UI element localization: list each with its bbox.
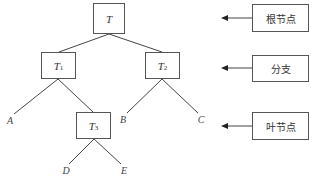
decision-tree-diagram: T T1 T2 T3 A B C D E 根节点 分支 叶节点 bbox=[0, 0, 315, 187]
edge-t2-c bbox=[162, 79, 198, 113]
legend-leaf-node: 叶节点 bbox=[252, 112, 309, 140]
leaf-a: A bbox=[7, 115, 13, 126]
node-t1-subscript: 1 bbox=[60, 64, 64, 72]
leaf-c: C bbox=[198, 114, 205, 125]
edge-t-t1 bbox=[59, 34, 109, 52]
leaf-d: D bbox=[62, 165, 69, 176]
node-root: T bbox=[93, 3, 125, 34]
legend-leaf-node-label: 叶节点 bbox=[266, 119, 296, 134]
legend-root-node-label: 根节点 bbox=[266, 11, 296, 26]
node-t2-subscript: 2 bbox=[164, 64, 168, 72]
edge-t3-e bbox=[94, 139, 121, 164]
leaf-b: B bbox=[120, 114, 126, 125]
legend-branch: 分支 bbox=[252, 55, 309, 82]
legend-arrow-root-icon bbox=[221, 15, 228, 21]
legend-branch-label: 分支 bbox=[271, 61, 291, 76]
node-t2: T2 bbox=[145, 52, 180, 79]
node-t3-subscript: 3 bbox=[95, 124, 99, 132]
node-root-label: T bbox=[106, 13, 112, 25]
node-t3: T3 bbox=[76, 112, 111, 139]
legend-arrow-branch-icon bbox=[221, 65, 228, 71]
legend-arrow-leaf-icon bbox=[221, 123, 228, 129]
legend-root-node: 根节点 bbox=[252, 4, 309, 32]
edge-t2-b bbox=[127, 79, 162, 113]
node-t1: T1 bbox=[41, 52, 76, 79]
edge-t1-t3 bbox=[58, 79, 93, 112]
edge-t-t2 bbox=[109, 34, 162, 52]
leaf-e: E bbox=[121, 165, 127, 176]
edge-t1-a bbox=[14, 79, 58, 114]
edge-t3-d bbox=[69, 139, 94, 164]
